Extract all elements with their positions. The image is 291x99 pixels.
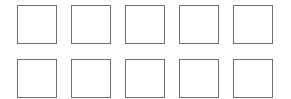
box-r2-c1[interactable] (17, 59, 57, 98)
box-r2-c3[interactable] (125, 59, 165, 98)
box-r2-c5[interactable] (233, 59, 273, 98)
box-r1-c1[interactable] (17, 5, 57, 44)
box-grid (17, 5, 273, 98)
box-r1-c2[interactable] (71, 5, 111, 44)
box-r1-c5[interactable] (233, 5, 273, 44)
box-r1-c3[interactable] (125, 5, 165, 44)
box-r2-c4[interactable] (179, 59, 219, 98)
box-r1-c4[interactable] (179, 5, 219, 44)
box-r2-c2[interactable] (71, 59, 111, 98)
